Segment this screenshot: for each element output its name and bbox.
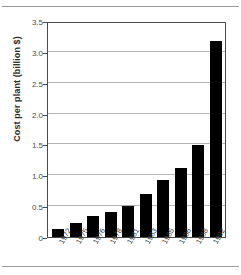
y-axis-tick-label: 1.5 bbox=[3, 141, 43, 150]
plot-area bbox=[47, 22, 226, 238]
y-axis-tick-label: 0.5 bbox=[3, 203, 43, 212]
y-axis-tick-label: 2.5 bbox=[3, 79, 43, 88]
y-axis-tick-label: 3.5 bbox=[3, 18, 43, 27]
bar bbox=[192, 145, 204, 237]
y-axis-tick-label: 1.0 bbox=[3, 172, 43, 181]
y-axis-tick-label: 3.0 bbox=[3, 48, 43, 57]
y-axis-tick-mark bbox=[43, 238, 47, 239]
y-axis-tick-label: 2.0 bbox=[3, 110, 43, 119]
bar bbox=[210, 41, 222, 237]
bar-series bbox=[48, 23, 225, 237]
figure: Cost per plant (billion $) 00.51.01.52.0… bbox=[0, 0, 241, 275]
y-axis-tick-label: 0 bbox=[3, 234, 43, 243]
figure-top-rule bbox=[2, 6, 239, 7]
figure-bottom-rule bbox=[2, 266, 239, 267]
